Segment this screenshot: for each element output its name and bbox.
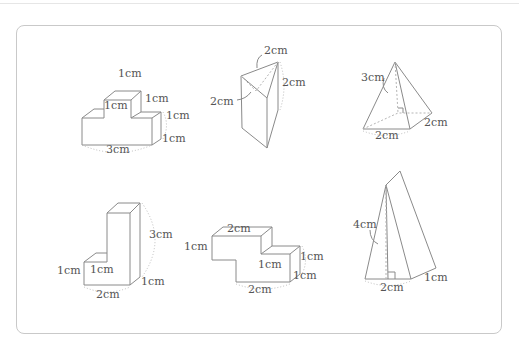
fig4-label-step-width: 1cm [90,264,114,275]
fig2-label-top-edge: 2cm [264,45,288,56]
fig1-label-inner-height: 1cm [104,100,128,111]
fig1-label-depth: 1cm [162,133,186,144]
fig1-label-right-height: 1cm [166,110,190,121]
fig2-label-height: 2cm [282,77,306,88]
fig1-label-step-depth: 1cm [145,93,169,104]
fig3-label-base-side: 2cm [424,117,448,128]
fig6-label-depth: 1cm [424,272,448,283]
fig4-label-depth: 1cm [141,276,165,287]
fig3-label-height: 3cm [361,72,385,83]
fig2-label-base-edge: 2cm [210,96,234,107]
fig5-label-left-height: 1cm [184,241,208,252]
fig1-label-base-length: 3cm [106,144,130,155]
fig5-label-depth: 1cm [293,270,317,281]
fig4-label-step-height: 1cm [57,265,81,276]
fig5-label-inner-height: 1cm [258,259,282,270]
fig4-label-base-length: 2cm [96,289,120,300]
figure-2-triangular-prism [237,55,284,148]
fig5-label-base-length: 2cm [248,284,272,295]
fig6-label-height: 4cm [353,219,377,230]
fig5-label-top-length: 2cm [227,223,251,234]
fig6-label-base-edge: 2cm [380,282,404,293]
fig5-label-right-height: 1cm [300,251,324,262]
fig4-label-height: 3cm [149,229,173,240]
fig1-label-top-width: 1cm [118,68,142,79]
fig3-label-base-front: 2cm [375,130,399,141]
